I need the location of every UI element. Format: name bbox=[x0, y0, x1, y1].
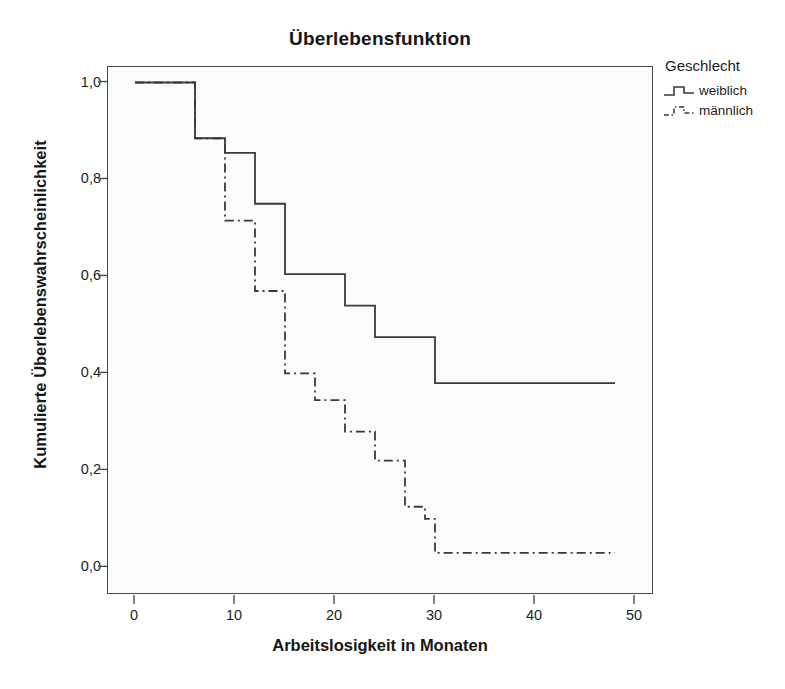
x-axis-tick-labels: 01020304050 bbox=[0, 607, 785, 629]
figure-canvas: Überlebensfunktion 0,00,20,40,60,81,0 01… bbox=[0, 0, 785, 689]
x-tick-label: 50 bbox=[611, 607, 657, 623]
series-line-weiblich bbox=[135, 83, 615, 384]
legend-swatch-weiblich bbox=[663, 83, 695, 99]
y-axis-tick-labels: 0,00,20,40,60,81,0 bbox=[55, 0, 101, 689]
y-tick-label: 0,0 bbox=[61, 558, 101, 574]
y-axis-tick-marks bbox=[96, 66, 108, 594]
legend: Geschlecht weiblichmännlich bbox=[663, 57, 783, 121]
y-tick-label: 0,6 bbox=[61, 267, 101, 283]
plot-svg bbox=[108, 67, 654, 595]
chart-title: Überlebensfunktion bbox=[107, 28, 653, 50]
y-tick-label: 0,2 bbox=[61, 461, 101, 477]
legend-label: weiblich bbox=[699, 83, 747, 98]
x-tick-label: 10 bbox=[211, 607, 257, 623]
legend-entry-männlich[interactable]: männlich bbox=[663, 101, 783, 120]
legend-swatch-männlich bbox=[663, 103, 695, 119]
x-tick-label: 0 bbox=[111, 607, 157, 623]
series-layer bbox=[135, 83, 615, 553]
x-tick-label: 20 bbox=[311, 607, 357, 623]
y-axis-title: Kumulierte Überlebenswahrscheinlichkeit bbox=[31, 90, 50, 520]
x-axis-title: Arbeitslosigkeit in Monaten bbox=[107, 636, 653, 655]
y-tick-label: 0,8 bbox=[61, 170, 101, 186]
legend-entries: weiblichmännlich bbox=[663, 81, 783, 120]
y-tick-label: 1,0 bbox=[61, 74, 101, 90]
legend-entry-weiblich[interactable]: weiblich bbox=[663, 81, 783, 100]
x-tick-label: 30 bbox=[411, 607, 457, 623]
x-axis-tick-marks bbox=[107, 594, 653, 606]
plot-area bbox=[107, 66, 653, 594]
x-tick-label: 40 bbox=[511, 607, 557, 623]
legend-label: männlich bbox=[699, 103, 753, 118]
y-tick-label: 0,4 bbox=[61, 364, 101, 380]
legend-title: Geschlecht bbox=[665, 57, 783, 74]
